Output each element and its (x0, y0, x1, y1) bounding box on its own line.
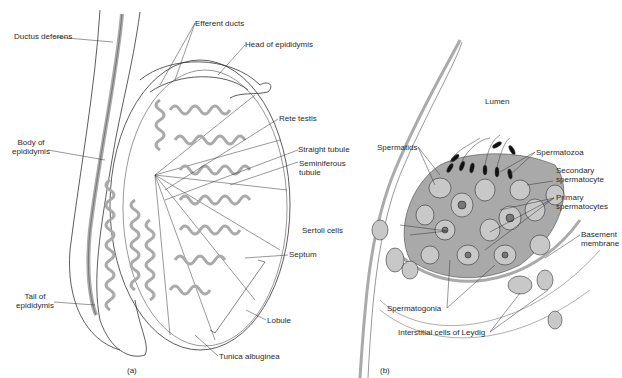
label-primary-line-1: Primary (556, 193, 608, 202)
label-tail-line-2: epididymis (14, 301, 56, 310)
label-seminiferous-line-1: Seminiferous (299, 159, 346, 168)
label-rete-testis: Rete testis (279, 114, 317, 123)
panel-a-artwork (48, 10, 298, 356)
caption-panel-b: (b) (380, 366, 390, 375)
label-secondary-line-2: spermatocyte (556, 175, 604, 184)
label-seminiferous-line-2: tubule (299, 168, 346, 177)
label-ductus-deferens: Ductus deferens (14, 32, 72, 41)
label-body-line-2: epididymis (12, 147, 50, 156)
label-efferent-ducts: Efferent ducts (195, 19, 244, 28)
label-tunica-albuginea: Tunica albuginea (219, 352, 280, 361)
label-lumen: Lumen (485, 97, 509, 106)
label-basement-line-1: Basement (581, 230, 619, 239)
label-septum: Septum (289, 250, 317, 259)
label-primary-spermatocytes: Primary spermatocytes (556, 193, 608, 211)
label-lobule: Lobule (267, 316, 291, 325)
label-body-line-1: Body of (12, 138, 50, 147)
label-body-of-epididymis: Body of epididymis (12, 138, 50, 156)
label-basement-membrane: Basement membrane (581, 230, 619, 248)
label-basement-line-2: membrane (581, 239, 619, 248)
label-spermatids: Spermatids (377, 143, 417, 152)
label-spermatozoa: Spermatozoa (536, 148, 584, 157)
label-sertoli-cells: Sertoli cells (302, 226, 343, 235)
label-secondary-spermatocyte: Secondary spermatocyte (556, 166, 604, 184)
label-spermatogonia: Spermatogonia (387, 304, 441, 313)
label-interstitial-cells: Interstitial cells of Leydig (398, 328, 485, 337)
label-tail-line-1: Tail of (14, 292, 56, 301)
label-seminiferous-tubule: Seminiferous tubule (299, 159, 346, 177)
label-head-of-epididymis: Head of epididymis (245, 40, 313, 49)
caption-panel-a: (a) (127, 366, 137, 375)
label-straight-tubule: Straight tubule (298, 145, 350, 154)
label-primary-line-2: spermatocytes (556, 202, 608, 211)
testis-diagram-artwork (0, 0, 622, 378)
label-secondary-line-1: Secondary (556, 166, 604, 175)
label-tail-of-epididymis: Tail of epididymis (14, 292, 56, 310)
